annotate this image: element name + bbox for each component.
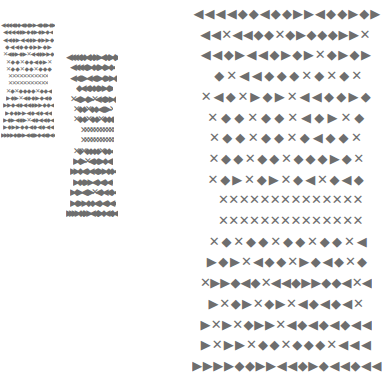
cross-glyph-icon: ✕ xyxy=(259,190,269,210)
triangle-glyph-icon: ◀ xyxy=(329,315,340,335)
cross-glyph-icon: ✕ xyxy=(306,232,318,252)
triangle-glyph-icon: ▶ xyxy=(265,315,276,335)
cross-glyph-icon: ✕ xyxy=(270,211,280,231)
cross-glyph-icon: ✕ xyxy=(253,294,264,314)
diamond-glyph-icon: ◆ xyxy=(220,232,232,252)
cross-glyph-icon: ✕ xyxy=(239,190,249,210)
cross-glyph-icon: ✕ xyxy=(286,87,298,107)
pattern-row: ◀◀◀◀◆◆◀◆◆▶▶◀◆◆▶◆▶ xyxy=(66,53,118,62)
triangle-glyph-icon: ◀ xyxy=(211,25,222,45)
diamond-glyph-icon: ◆ xyxy=(308,294,319,314)
cross-glyph-icon: ✕ xyxy=(311,211,321,231)
pattern-row: ◀◀◀◀◆◆◀◆◆▶▶◀◆◆▶◆▶ xyxy=(193,4,381,24)
triangle-glyph-icon: ◀ xyxy=(112,199,116,208)
diamond-glyph-icon: ◆ xyxy=(230,294,241,314)
triangle-glyph-icon: ▶ xyxy=(296,25,307,45)
triangle-glyph-icon: ▶ xyxy=(349,25,360,45)
diamond-glyph-icon: ◆ xyxy=(315,335,326,355)
diamond-glyph-icon: ◆ xyxy=(350,356,361,376)
diamond-glyph-icon: ◆ xyxy=(310,252,322,272)
triangle-glyph-icon: ▶ xyxy=(266,356,277,376)
pattern-row: ▶◆▶✕◀◆◆▶◆◀◆ xyxy=(73,157,113,166)
triangle-glyph-icon: ◀ xyxy=(211,45,222,65)
diamond-glyph-icon: ◆ xyxy=(297,315,308,335)
pattern-row: ▶◆▶✕◀◆◆✕▶◆◀◆✕◆ xyxy=(206,252,368,272)
pattern-row: ▶▶▶▶◆◆▶▶◀◀◆▶◆◀◀◆◀◀ xyxy=(1,132,55,138)
diamond-glyph-icon: ◆ xyxy=(292,335,303,355)
triangle-glyph-icon: ◀ xyxy=(287,356,298,376)
triangle-glyph-icon: ▶ xyxy=(249,87,261,107)
diamond-glyph-icon: ◆ xyxy=(112,95,116,104)
triangle-glyph-icon: ◀ xyxy=(341,170,353,190)
triangle-glyph-icon: ▶ xyxy=(203,356,214,376)
diamond-glyph-icon: ◆ xyxy=(220,149,232,169)
diamond-glyph-icon: ◆ xyxy=(47,66,52,72)
triangle-glyph-icon: ▶ xyxy=(115,53,118,62)
triangle-glyph-icon: ◀ xyxy=(193,4,204,24)
diamond-glyph-icon: ◆ xyxy=(219,108,232,128)
triangle-glyph-icon: ▶ xyxy=(213,356,224,376)
triangle-glyph-icon: ◀ xyxy=(286,315,297,335)
cross-glyph-icon: ✕ xyxy=(353,149,365,169)
diamond-glyph-icon: ◆ xyxy=(237,4,248,24)
triangle-glyph-icon: ◀ xyxy=(360,335,371,355)
triangle-glyph-icon: ◀ xyxy=(259,4,270,24)
pattern-row: ▶▶◆◀◆◀◀◆▶▶◆◆◀ xyxy=(3,102,54,108)
triangle-glyph-icon: ◀ xyxy=(52,132,55,138)
diamond-glyph-icon: ◆ xyxy=(333,252,345,272)
diamond-glyph-icon: ◆ xyxy=(317,149,329,169)
diamond-glyph-icon: ◆ xyxy=(256,149,268,169)
cross-glyph-icon: ✕ xyxy=(285,128,298,148)
triangle-glyph-icon: ▶ xyxy=(241,294,252,314)
triangle-glyph-icon: ◀ xyxy=(281,273,291,293)
triangle-glyph-icon: ◀ xyxy=(112,188,116,197)
pattern-row: ▶◆▶◀◆▶✕◀◆◀◀◆◀ xyxy=(70,188,116,197)
diamond-glyph-icon: ◆ xyxy=(328,25,339,45)
pattern-row: ◀◀◆▶◀◀◆▶◆▶▶◆ xyxy=(70,74,117,83)
diamond-glyph-icon: ◆ xyxy=(234,356,245,376)
diamond-glyph-icon: ◆ xyxy=(273,128,286,148)
cross-glyph-icon: ✕ xyxy=(342,211,352,231)
diamond-glyph-icon: ◆ xyxy=(331,294,342,314)
diamond-glyph-icon: ◆ xyxy=(213,66,226,86)
diamond-glyph-icon: ◆ xyxy=(261,87,273,107)
diamond-glyph-icon: ◆ xyxy=(234,128,247,148)
triangle-glyph-icon: ◀ xyxy=(311,128,324,148)
triangle-glyph-icon: ▶ xyxy=(348,4,359,24)
cross-glyph-icon: ✕ xyxy=(269,232,281,252)
diamond-glyph-icon: ◆ xyxy=(245,356,256,376)
pattern-row: ▶◆▶◀◆▶✕◀◆◀◀◆◀ xyxy=(3,117,54,123)
cross-glyph-icon: ✕ xyxy=(249,190,259,210)
triangle-glyph-icon: ◀ xyxy=(322,252,334,272)
triangle-glyph-icon: ◀ xyxy=(297,294,308,314)
cross-glyph-icon: ✕ xyxy=(275,315,286,335)
cross-glyph-icon: ✕ xyxy=(280,170,292,190)
triangle-glyph-icon: ▶ xyxy=(329,149,341,169)
triangle-glyph-icon: ▶ xyxy=(200,335,211,355)
triangle-glyph-icon: ▶ xyxy=(231,170,243,190)
cross-glyph-icon: ✕ xyxy=(280,149,292,169)
triangle-glyph-icon: ▶ xyxy=(52,22,55,28)
pattern-row: ✕◆✕◆◆◆◆✕◆◆◀ xyxy=(6,88,52,94)
pattern-row: ✕◆◆✕◆◆✕◆◀◆◆✕ xyxy=(208,128,363,148)
pattern-row: ◀◀◀◀◆▶◆◆▶◆▶◆◀ xyxy=(3,29,53,35)
diamond-glyph-icon: ◆ xyxy=(219,170,231,190)
diamond-glyph-icon: ◆ xyxy=(335,87,347,107)
cross-glyph-icon: ✕ xyxy=(208,149,220,169)
pattern-row: ▶✕◆▶✕◆▶✕◀◆◀◆◀✕ xyxy=(208,294,364,314)
cross-glyph-icon: ✕ xyxy=(352,190,362,210)
triangle-glyph-icon: ▶ xyxy=(220,273,230,293)
cross-glyph-icon: ✕ xyxy=(270,190,280,210)
cross-glyph-icon: ✕ xyxy=(109,105,113,114)
pattern-row: ▶✕▶▶✕◆◆✕◆◆◆✕◀◀◀ xyxy=(200,335,372,355)
diamond-glyph-icon: ◆ xyxy=(319,356,330,376)
cross-glyph-icon: ✕ xyxy=(332,190,342,210)
diamond-glyph-icon: ◆ xyxy=(275,252,287,272)
triangle-glyph-icon: ◀ xyxy=(340,356,351,376)
diamond-glyph-icon: ◆ xyxy=(245,232,257,252)
pattern-row: ✕▶▶◆◀◆✕◀◀◆▶▶◆◆◀✕◀ xyxy=(200,273,372,293)
cross-glyph-icon: ✕ xyxy=(246,335,257,355)
pattern-row: ▶✕▶✕◆▶▶✕◀◆◀◆◀◆◀◀ xyxy=(200,315,372,335)
triangle-glyph-icon: ◀ xyxy=(204,4,215,24)
diamond-glyph-icon: ◆ xyxy=(297,356,308,376)
